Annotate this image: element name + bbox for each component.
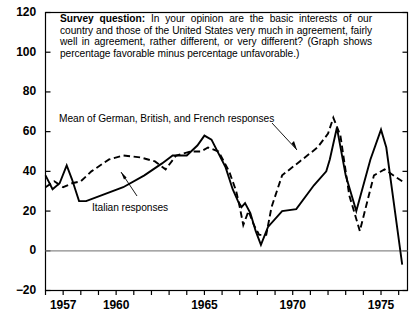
chart-series-lines — [46, 118, 403, 265]
y-axis-label: 0 — [2, 243, 36, 257]
x-axis-label: 1965 — [184, 298, 224, 312]
x-axis-label: 1960 — [96, 298, 136, 312]
x-axis-label: 1957 — [43, 298, 83, 312]
x-axis-label: 1970 — [273, 298, 313, 312]
series-line-mean — [46, 118, 403, 235]
y-axis-label: 60 — [2, 124, 36, 138]
x-axis-label: 1975 — [361, 298, 401, 312]
series-label-italian: Italian responses — [92, 202, 168, 213]
y-axis-label: 80 — [2, 84, 36, 98]
y-axis-label: 20 — [2, 204, 36, 218]
survey-question-label: Survey question: — [60, 13, 145, 24]
chart-container: −20020406080100120 19571960196519701975 … — [0, 0, 417, 319]
y-axis-label: −20 — [2, 283, 36, 297]
series-label-mean: Mean of German, British, and French resp… — [59, 113, 274, 124]
leader-arrow-italian — [121, 172, 127, 179]
leader-line-mean — [272, 123, 297, 150]
survey-question-text: Survey question: In your opinion are the… — [60, 13, 372, 60]
y-axis-label: 40 — [2, 164, 36, 178]
y-axis-label: 100 — [2, 45, 36, 59]
y-axis-label: 120 — [2, 5, 36, 19]
